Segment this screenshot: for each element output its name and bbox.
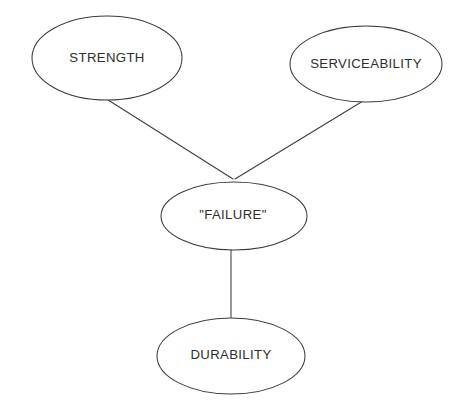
edge-strength-to-failure (105, 98, 233, 179)
diagram-canvas: STRENGTH SERVICEABILITY "FAILURE" DURABI… (0, 0, 465, 414)
node-durability[interactable]: DURABILITY (157, 318, 305, 394)
durability-label: DURABILITY (190, 347, 271, 362)
strength-label: STRENGTH (69, 50, 144, 65)
serviceability-label: SERVICEABILITY (310, 56, 422, 71)
edge-serviceability-to-failure (235, 101, 363, 179)
failure-label: "FAILURE" (199, 207, 266, 222)
node-serviceability[interactable]: SERVICEABILITY (290, 26, 442, 102)
diagram-svg: STRENGTH SERVICEABILITY "FAILURE" DURABI… (0, 0, 465, 414)
node-strength[interactable]: STRENGTH (32, 16, 182, 100)
node-failure[interactable]: "FAILURE" (161, 182, 307, 250)
